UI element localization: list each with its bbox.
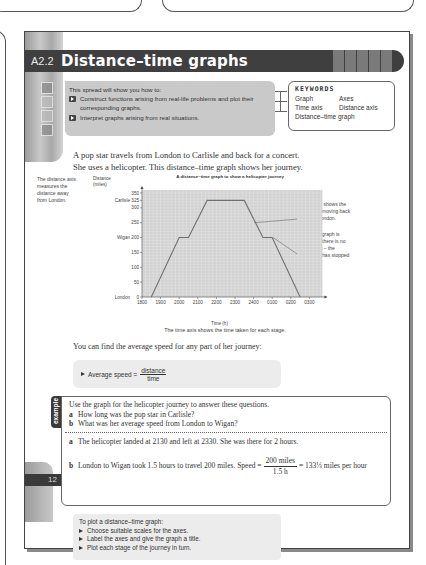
objectives-intro: This spread will show you how to: — [69, 86, 271, 93]
previous-page-box — [0, 0, 142, 12]
x-axis-label: Time (h) — [211, 321, 228, 326]
speed-fraction: distance time — [140, 367, 166, 382]
decor-cell — [41, 82, 53, 94]
x-tick-label: 2400 — [248, 300, 259, 305]
place-label: Wigan — [117, 235, 130, 240]
y-axis-arrow — [141, 186, 144, 189]
example-questions: Use the graph for the helicopter journey… — [69, 400, 269, 429]
triangle-bullet-icon — [81, 372, 85, 376]
connector-line — [275, 91, 287, 92]
intro-paragraph: A pop star travels from London to Carlis… — [73, 149, 303, 173]
x-tick-label: 2200 — [211, 300, 222, 305]
place-label: London — [115, 295, 131, 300]
textbook-page: A2.2 Distance–time graphs This spread wi… — [24, 31, 410, 549]
average-speed-intro: You can find the average speed for any p… — [73, 342, 262, 351]
return-stage-note: This stage shows the helicopter moving b… — [299, 201, 351, 222]
triangle-bullet-icon — [79, 537, 83, 541]
tip-item: Label the axes and give the graph a titl… — [79, 535, 275, 544]
triangle-bullet-icon — [79, 529, 83, 533]
dotted-divider — [65, 432, 387, 433]
x-tick-label: 1900 — [155, 300, 166, 305]
x-tick-label: 1800 — [137, 300, 148, 305]
keyword: Time axis — [295, 104, 339, 111]
chart-title: A distance–time graph to show a helicopt… — [145, 174, 315, 179]
decor-cell — [41, 96, 53, 108]
annotation-pointer — [255, 219, 297, 223]
previous-page-box-right — [162, 0, 414, 12]
keyword: Graph — [295, 95, 339, 102]
keywords-title: KEYWORDS — [295, 85, 388, 93]
time-axis-note: The time axis shows the time taken for e… — [135, 327, 315, 333]
x-tick-label: 0300 — [304, 300, 315, 305]
keyword: Distance axis — [339, 104, 388, 111]
decor-cell — [41, 110, 53, 122]
tips-box: To plot a distance–time graph: Choose su… — [73, 514, 281, 560]
y-tick-label: 350 — [131, 191, 139, 196]
tips-title: To plot a distance–time graph: — [79, 518, 275, 527]
annotation-pointer — [273, 238, 297, 254]
header-stripes — [332, 50, 392, 72]
unit-code: A2.2 — [31, 55, 61, 67]
formula-label: Average speed = — [88, 371, 137, 378]
refuel-note: When the graph is horizontal there is no… — [299, 231, 351, 266]
decor-cell — [41, 124, 53, 136]
play-bullet-icon — [69, 96, 76, 102]
connector-line — [280, 91, 281, 111]
x-tick-label: 2100 — [193, 300, 204, 305]
page-title: Distance–time graphs — [61, 52, 248, 70]
keywords-box: KEYWORDS Graph Axes Time axis Distance a… — [288, 81, 395, 131]
page-number: 12 — [25, 474, 61, 486]
x-tick-label: 0200 — [286, 300, 297, 305]
triangle-bullet-icon — [79, 546, 83, 550]
y-axis-label: Distance (miles) — [93, 176, 115, 188]
answer-a: aThe helicopter landed at 2130 and left … — [69, 437, 298, 447]
y-tick-label: 0 — [136, 295, 139, 300]
answer-fraction: 200 miles 1.5 h — [264, 456, 297, 476]
connector-line — [275, 111, 287, 112]
y-tick-label: 250 — [131, 220, 139, 225]
y-tick-label: 300 — [131, 205, 139, 210]
objectives-box: This spread will show you how to: Constr… — [65, 81, 275, 136]
journey-line — [151, 200, 300, 297]
x-tick-label: 2300 — [230, 300, 241, 305]
section-header: A2.2 Distance–time graphs — [25, 50, 404, 72]
plot-background — [142, 190, 322, 297]
keyword: Distance–time graph — [295, 113, 388, 120]
y-tick-label: 150 — [131, 250, 139, 255]
y-tick-label: 50 — [134, 280, 140, 285]
y-tick-label: 325 — [131, 198, 139, 203]
x-tick-label: 2000 — [174, 300, 185, 305]
answer-b: b London to Wigan took 1.5 hours to trav… — [69, 456, 367, 476]
connector-line — [275, 101, 287, 102]
tip-item: Choose suitable scales for the axes. — [79, 527, 275, 536]
x-tick-label: 0100 — [267, 300, 278, 305]
objective-item: Construct functions arising from real-li… — [69, 95, 271, 112]
formula-box: Average speed = distance time — [73, 360, 281, 388]
objective-item: Interpret graphs arising from real situa… — [69, 114, 271, 123]
tip-item: Plot each stage of the journey in turn. — [79, 544, 275, 553]
y-tick-label: 100 — [131, 265, 139, 270]
question-a: aHow long was the pop star in Carlisle? — [69, 410, 269, 420]
y-tick-label: 200 — [131, 235, 139, 240]
keyword: Axes — [339, 95, 388, 102]
decorative-photo-strip-bottom — [25, 462, 53, 522]
distance-axis-note: The distance axis measures the distance … — [37, 176, 77, 204]
place-label: Carlisle — [115, 198, 131, 203]
x-axis-arrow — [324, 296, 327, 299]
previous-page-edge — [0, 30, 6, 565]
play-bullet-icon — [69, 115, 76, 121]
question-b: bWhat was her average speed from London … — [69, 419, 269, 429]
